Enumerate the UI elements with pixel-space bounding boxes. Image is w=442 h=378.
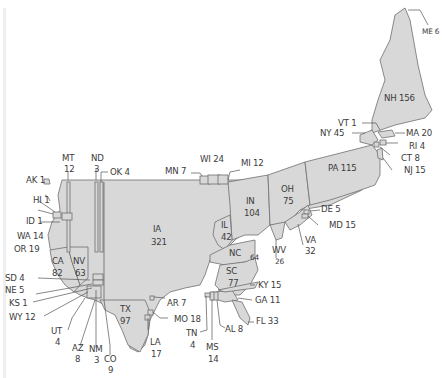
label-in-value: 104	[244, 208, 260, 218]
label-il-value: 42	[221, 232, 232, 242]
label-co: CO	[104, 354, 117, 364]
label-me: ME 6	[422, 27, 440, 36]
state-wv[interactable]	[270, 222, 285, 240]
label-oh-value: 75	[283, 196, 294, 206]
label-hi: HI 1	[33, 195, 49, 205]
label-nc-value: 64	[250, 253, 260, 262]
state-pa[interactable]	[305, 145, 380, 205]
label-ms-value: 14	[208, 354, 219, 364]
state-mi[interactable]	[218, 175, 228, 184]
label-in: IN	[246, 196, 255, 206]
label-de: DE 5	[321, 204, 340, 214]
label-nd-value: 3	[94, 164, 99, 174]
label-co-value: 9	[108, 365, 113, 375]
label-wv-value: 26	[275, 257, 285, 266]
state-mo[interactable]	[148, 310, 153, 315]
label-ne: NE 5	[5, 285, 24, 295]
state-ne[interactable]	[93, 280, 103, 285]
label-md: MD 15	[329, 220, 356, 230]
label-mt: MT	[62, 153, 75, 163]
label-ak: AK 1	[26, 175, 45, 185]
label-nh: NH 156	[384, 93, 415, 103]
state-ri[interactable]	[380, 140, 386, 145]
label-sc: SC	[226, 266, 237, 276]
label-ny: NY 45	[320, 128, 344, 138]
label-pa: PA 115	[328, 163, 356, 173]
label-nv: NV	[73, 256, 85, 266]
label-id: ID 1	[26, 216, 43, 226]
label-ct: CT 8	[401, 153, 420, 163]
label-mn: MN 7	[165, 166, 186, 176]
label-ks: KS 1	[9, 298, 28, 308]
state-sd[interactable]	[93, 274, 103, 280]
label-nv-value: 63	[75, 268, 86, 278]
label-ms: MS	[206, 342, 218, 352]
label-ut-value: 4	[55, 337, 60, 347]
label-oh: OH	[281, 184, 294, 194]
label-az-value: 8	[75, 354, 80, 364]
label-az: AZ	[72, 343, 84, 353]
label-mo: MO 18	[174, 314, 201, 324]
label-sc-value: 77	[228, 278, 239, 288]
label-il: IL	[221, 220, 228, 230]
label-tx-value: 97	[120, 316, 131, 326]
label-mi: MI 12	[241, 158, 264, 168]
state-fl[interactable]	[232, 300, 250, 325]
label-ri: RI 4	[409, 141, 425, 151]
state-la[interactable]	[145, 315, 150, 320]
state-wy[interactable]	[87, 286, 101, 298]
label-ok: OK 4	[110, 167, 130, 177]
state-nj[interactable]	[377, 148, 383, 160]
label-nd: ND	[91, 153, 104, 163]
label-wa: WA 14	[17, 231, 44, 241]
state-ct[interactable]	[374, 142, 379, 147]
label-ia: IA	[153, 224, 161, 234]
label-tn: TN	[185, 328, 197, 338]
state-nd[interactable]	[95, 182, 98, 252]
label-ga: GA 11	[255, 295, 280, 305]
label-nc: NC	[229, 248, 241, 258]
label-nm: NM	[89, 344, 102, 354]
label-va-value: 32	[305, 246, 316, 256]
label-or: OR 19	[14, 244, 39, 254]
label-nj: NJ 15	[404, 165, 426, 175]
label-mt-value: 12	[64, 164, 75, 174]
label-tx: TX	[119, 304, 131, 314]
label-wv: WV	[272, 245, 286, 255]
state-ms[interactable]	[210, 292, 214, 300]
cartogram-map: ME 6 NH 156 VT 1 NY 45 MA 20 RI 4 CT 8 N…	[0, 0, 442, 378]
label-ca-value: 82	[52, 268, 63, 278]
label-sd: SD 4	[5, 273, 24, 283]
label-la: LA	[150, 337, 161, 347]
state-wa[interactable]	[53, 212, 61, 218]
label-vt: VT 1	[338, 118, 357, 128]
label-ia-value: 321	[151, 237, 167, 247]
label-ky: KY 15	[258, 280, 281, 290]
label-wy: WY 12	[9, 312, 35, 322]
state-ar[interactable]	[150, 296, 154, 300]
label-al: AL 8	[225, 324, 243, 334]
label-ca: CA	[52, 256, 64, 266]
state-md[interactable]	[302, 214, 308, 218]
label-nm-value: 3	[94, 355, 99, 365]
label-ar: AR 7	[167, 298, 186, 308]
state-de[interactable]	[304, 210, 309, 214]
label-wi: WI 24	[200, 154, 224, 164]
label-va: VA	[305, 235, 316, 245]
label-tn-value: 4	[190, 340, 195, 350]
state-ok[interactable]	[100, 182, 103, 252]
label-ma: MA 20	[406, 128, 432, 138]
label-ut: UT	[51, 326, 63, 336]
state-ma[interactable]	[378, 130, 395, 138]
state-or[interactable]	[62, 213, 72, 220]
label-fl: FL 33	[256, 316, 278, 326]
label-la-value: 17	[151, 349, 162, 359]
